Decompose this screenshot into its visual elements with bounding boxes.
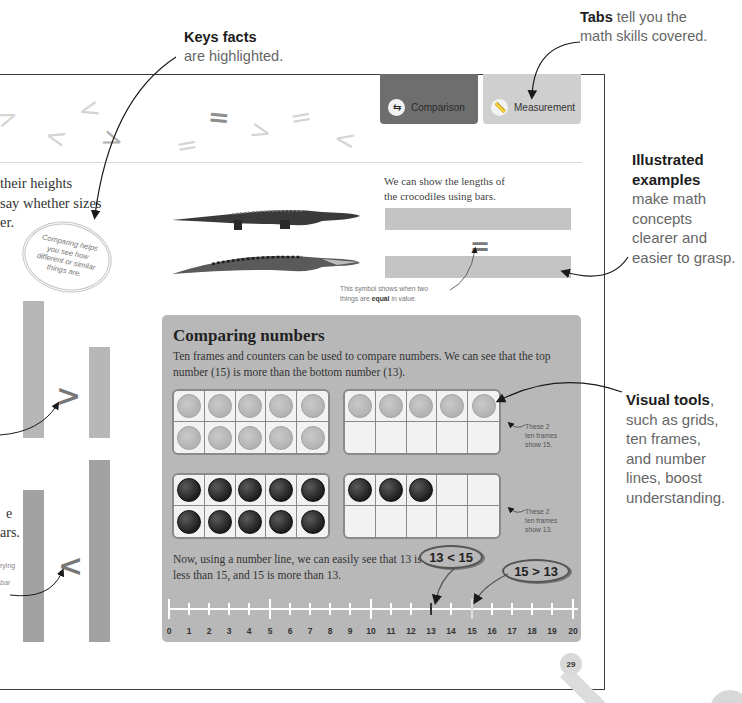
tab-comparison-label: Comparison — [411, 99, 465, 116]
annotation-visual-line: understanding. — [626, 488, 725, 508]
annotation-tabs: Tabs tell you the math skills covered. — [580, 8, 707, 46]
counter — [269, 510, 293, 534]
annotation-tabs-text2: math skills covered. — [580, 27, 707, 46]
annotation-visual-line: such as grids, — [626, 410, 725, 430]
tick — [168, 599, 170, 619]
numberline-label: 14 — [444, 626, 458, 636]
numberline-label: 4 — [242, 626, 256, 636]
counter — [238, 478, 262, 502]
tick — [410, 603, 412, 615]
counter — [301, 478, 325, 502]
annotation-key-facts-title: Keys facts — [184, 29, 257, 45]
counter — [301, 510, 325, 534]
crocodile-text-line: the crocodiles using bars. — [384, 189, 505, 204]
comparing-numbers-panel: Comparing numbers Ten frames and counter… — [162, 315, 581, 642]
counter — [208, 478, 232, 502]
tick-13-highlight — [430, 603, 432, 615]
number-line — [168, 597, 578, 621]
annotation-visual-line: ten frames, — [626, 429, 725, 449]
counter — [409, 394, 433, 418]
panel-description: Ten frames and counters can be used to c… — [173, 349, 578, 380]
counter — [348, 478, 372, 502]
greater-than-bubble: 15 > 13 — [502, 559, 570, 583]
annotation-comma: , — [710, 391, 714, 408]
numberline-label: 16 — [485, 626, 499, 636]
height-bar-short — [89, 347, 110, 438]
equal-caption-line: things are equal in value. — [340, 294, 428, 304]
numberline-label: 20 — [566, 626, 580, 636]
annotation-illustrated-line: concepts — [632, 209, 735, 229]
height-bar-tall — [89, 460, 110, 642]
page-number: 29 — [560, 653, 582, 675]
tab-measurement[interactable]: 📏 Measurement — [483, 74, 581, 124]
counter — [301, 394, 325, 418]
crocodile-text-line: We can show the lengths of — [384, 174, 505, 189]
counter — [348, 394, 372, 418]
tick — [208, 603, 210, 615]
intro-line: say whether sizes — [0, 194, 150, 214]
annotation-illustrated-examples: Illustrated examples make math concepts … — [632, 150, 735, 267]
frame-note-line: show 13. — [525, 526, 557, 535]
counter — [177, 394, 201, 418]
equal-caption: This symbol shows when two things are eq… — [340, 284, 428, 303]
frame-note-line: These 2 — [525, 423, 557, 432]
tick — [248, 603, 250, 615]
counter — [409, 478, 433, 502]
crocodile-illustration-bottom — [172, 248, 362, 278]
tick — [188, 603, 190, 615]
annotation-illustrated-line: easier to grasp. — [632, 248, 735, 268]
tick — [511, 603, 513, 615]
ruler-icon: 📏 — [491, 99, 508, 116]
tab-comparison[interactable]: ⇆ Comparison — [380, 74, 478, 124]
annotation-key-facts-text: are highlighted. — [184, 47, 283, 66]
counter — [208, 510, 232, 534]
deco-equal-symbol: = — [288, 102, 314, 131]
tick — [390, 603, 392, 615]
counter — [177, 478, 201, 502]
tick — [269, 599, 271, 619]
header-divider — [0, 162, 582, 163]
crocodile-length-bar-bottom — [385, 256, 571, 278]
numberline-label: 13 — [424, 626, 438, 636]
numberline-label: 5 — [263, 626, 277, 636]
counter — [238, 426, 262, 450]
numberline-label: 11 — [384, 626, 398, 636]
tick — [551, 603, 553, 615]
numberline-label: 10 — [364, 626, 378, 636]
deco-equal-symbol: = — [207, 103, 231, 131]
frame-note-line: show 15. — [525, 441, 557, 450]
panel-title: Comparing numbers — [173, 326, 325, 346]
ten-frame-bottom-left — [172, 473, 330, 539]
counter — [177, 510, 201, 534]
ten-frame-bottom-right — [343, 473, 501, 539]
numberline-label: 6 — [283, 626, 297, 636]
numberline-label: 1 — [182, 626, 196, 636]
numberline-label: 12 — [404, 626, 418, 636]
crocodile-illustration-top — [172, 204, 362, 234]
crocodile-text: We can show the lengths of the crocodile… — [384, 174, 505, 205]
annotation-illustrated-title1: Illustrated — [632, 151, 704, 168]
counter — [208, 394, 232, 418]
counter — [177, 426, 201, 450]
frame-note-line: These 2 — [525, 508, 557, 517]
counter — [269, 426, 293, 450]
counter — [379, 478, 403, 502]
counter — [208, 426, 232, 450]
tick — [349, 603, 351, 615]
numberline-label: 7 — [303, 626, 317, 636]
tick — [572, 599, 574, 619]
left-partial-caption: rying bar — [0, 558, 15, 592]
frame-note-13: These 2 ten frames show 13. — [525, 508, 557, 534]
tick — [329, 603, 331, 615]
annotation-visual-tools-title: Visual tools — [626, 391, 710, 408]
annotation-visual-line: lines, boost — [626, 468, 725, 488]
tab-measurement-label: Measurement — [514, 99, 575, 116]
numberline-label: 0 — [162, 626, 176, 636]
annotation-illustrated-title2: examples — [632, 171, 700, 188]
annotation-tabs-text1: tell you the — [613, 9, 687, 25]
arrows-compare-icon: ⇆ — [388, 99, 405, 116]
deco-equal-symbol: = — [174, 130, 200, 159]
counter — [379, 394, 403, 418]
counter — [269, 478, 293, 502]
frame-note-line: ten frames — [525, 432, 557, 441]
